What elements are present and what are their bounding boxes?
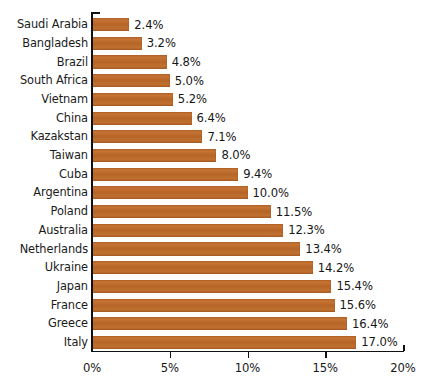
- category-label: Ukraine: [0, 261, 88, 274]
- bar: [92, 74, 170, 87]
- bar: [92, 37, 142, 50]
- bar-value-label: 3.2%: [147, 37, 176, 50]
- bar-value-label: 12.3%: [288, 224, 324, 237]
- bar-value-label: 13.4%: [305, 242, 341, 255]
- bar: [92, 299, 335, 312]
- bar: [92, 112, 192, 125]
- bar-value-label: 14.2%: [318, 261, 354, 274]
- bar-row: 2.4%: [92, 18, 426, 31]
- category-label: Cuba: [0, 168, 88, 181]
- category-label: Italy: [0, 336, 88, 349]
- bar-value-label: 8.0%: [221, 149, 250, 162]
- bar-value-label: 10.0%: [253, 186, 289, 199]
- category-label: Greece: [0, 317, 88, 330]
- bar-value-label: 11.5%: [276, 205, 312, 218]
- y-axis-line: [91, 12, 93, 351]
- bar-value-label: 17.0%: [361, 336, 397, 349]
- bar-row: 12.3%: [92, 224, 426, 237]
- category-label: Poland: [0, 205, 88, 218]
- bar-row: 6.4%: [92, 112, 426, 125]
- category-label: South Africa: [0, 74, 88, 87]
- category-label: Brazil: [0, 56, 88, 69]
- bar-row: 7.1%: [92, 130, 426, 143]
- bar-value-label: 15.6%: [340, 299, 376, 312]
- bar-row: 3.2%: [92, 37, 426, 50]
- bar: [92, 317, 347, 330]
- category-label: France: [0, 299, 88, 312]
- bar-row: 4.8%: [92, 55, 426, 68]
- bar-row: 5.0%: [92, 74, 426, 87]
- bar: [92, 205, 271, 218]
- bar-value-label: 9.4%: [243, 168, 272, 181]
- bar: [92, 186, 248, 199]
- bar-row: 11.5%: [92, 205, 426, 218]
- bar-row: 10.0%: [92, 186, 426, 199]
- bar-row: 13.4%: [92, 242, 426, 255]
- bar-row: 14.2%: [92, 261, 426, 274]
- x-tick-label: 15%: [313, 362, 338, 375]
- bar: [92, 336, 356, 349]
- bar-row: 17.0%: [92, 336, 426, 349]
- bar-row: 5.2%: [92, 93, 426, 106]
- x-tick-mark: [170, 352, 172, 358]
- bar: [92, 242, 300, 255]
- bar: [92, 168, 238, 181]
- bar-value-label: 4.8%: [172, 55, 201, 68]
- category-label: Kazakstan: [0, 130, 88, 143]
- bar-row: 9.4%: [92, 168, 426, 181]
- category-label: Saudi Arabia: [0, 18, 88, 31]
- x-tick-label: 20%: [390, 362, 415, 375]
- bar-row: 15.4%: [92, 280, 426, 293]
- category-label: Taiwan: [0, 149, 88, 162]
- bar-row: 15.6%: [92, 299, 426, 312]
- x-tick-label: 0%: [83, 362, 101, 375]
- bar-value-label: 6.4%: [197, 112, 226, 125]
- bar: [92, 55, 167, 68]
- bar-value-label: 5.0%: [175, 74, 204, 87]
- category-label: Argentina: [0, 186, 88, 199]
- bar-value-label: 5.2%: [178, 93, 207, 106]
- x-tick-mark: [248, 352, 250, 358]
- bar-value-label: 16.4%: [352, 317, 388, 330]
- category-label: China: [0, 112, 88, 125]
- bar-row: 8.0%: [92, 149, 426, 162]
- category-label: Japan: [0, 280, 88, 293]
- bar: [92, 261, 313, 274]
- x-tick-label: 10%: [235, 362, 260, 375]
- bar: [92, 130, 202, 143]
- bar: [92, 224, 283, 237]
- bar-value-label: 15.4%: [336, 280, 372, 293]
- bar: [92, 93, 173, 106]
- bar-value-label: 7.1%: [207, 130, 236, 143]
- bar: [92, 280, 331, 293]
- x-axis-end-cap: [403, 345, 405, 351]
- bar: [92, 149, 216, 162]
- x-tick-mark: [325, 352, 327, 358]
- bar-row: 16.4%: [92, 317, 426, 330]
- category-label: Vietnam: [0, 93, 88, 106]
- category-label: Netherlands: [0, 243, 88, 256]
- category-label: Bangladesh: [0, 37, 88, 50]
- bar: [92, 18, 129, 31]
- x-tick-label: 5%: [161, 362, 179, 375]
- category-label: Australia: [0, 224, 88, 237]
- bar-value-label: 2.4%: [134, 18, 163, 31]
- bar-chart: Saudi ArabiaBangladeshBrazilSouth Africa…: [0, 0, 426, 392]
